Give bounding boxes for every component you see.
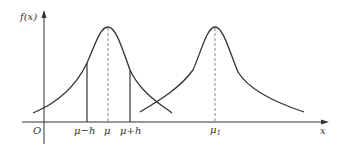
density-curve-mu1 — [140, 27, 304, 112]
tick-label-mu-minus-h: μ−h — [74, 125, 95, 136]
density-diagram: f(x) x O μ−h μ μ+h μ1 — [0, 0, 341, 148]
tick-label-mu-plus-h: μ+h — [120, 125, 141, 136]
origin-label: O — [33, 125, 41, 136]
y-axis-label: f(x) — [19, 11, 37, 22]
density-curve-mu — [33, 27, 172, 113]
y-axis-arrow-icon — [42, 10, 47, 18]
tick-label-mu: μ — [104, 125, 111, 136]
tick-label-mu1: μ1 — [210, 124, 221, 137]
x-axis-label: x — [320, 125, 326, 136]
tick-label-mu1-sub: 1 — [217, 129, 221, 137]
axes — [22, 10, 329, 144]
x-axis-arrow-icon — [321, 120, 329, 125]
